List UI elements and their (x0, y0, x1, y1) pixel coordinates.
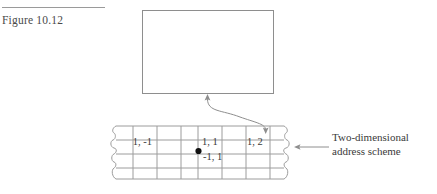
figure-number-label: Figure 10.12 (2, 14, 63, 26)
callout-left-arrow (294, 144, 329, 150)
figure-rule-divider (2, 7, 105, 8)
cell-label-1-neg1: 1, -1 (133, 136, 152, 147)
callout-line-1: Two-dimensional (332, 130, 432, 144)
cell-label-1-1: 1, 1 (202, 136, 218, 147)
cell-label-1-2: 1, 2 (247, 136, 263, 147)
arrowhead-up-icon (205, 94, 211, 101)
grid-label-layer: 1, -1 1, 1 1, 2 -1, 1 (110, 120, 295, 182)
callout-line-2: address scheme (332, 144, 432, 158)
address-scheme-callout-text: Two-dimensional address scheme (332, 130, 432, 158)
figure-page: Figure 10.12 (0, 0, 437, 194)
cell-label-neg1-1: -1, 1 (203, 151, 222, 162)
empty-rectangle-panel (142, 10, 274, 94)
